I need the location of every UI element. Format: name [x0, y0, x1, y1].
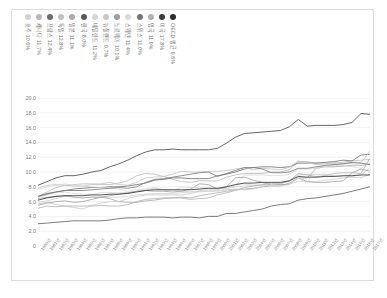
legend-item-label: 미국 17.8%	[159, 23, 165, 50]
legend-item[interactable]: 네덜란드 11.2%	[88, 12, 101, 97]
legend-marker-dot-icon	[125, 14, 131, 20]
legend-item[interactable]: 영국 11.9%	[144, 12, 157, 97]
y-axis-tick-label: 6.0	[29, 199, 37, 205]
legend-item-label: 스웨덴 11.4%	[125, 23, 131, 55]
legend-item-label: OECD 평균 9.6%	[170, 23, 176, 64]
line-chart-svg	[38, 98, 370, 246]
legend-item-label: 호주 10.6%	[25, 23, 31, 50]
legend-marker-dot-icon	[92, 14, 98, 20]
legend-marker-dot-icon	[58, 14, 64, 20]
series-line	[38, 163, 370, 197]
legend-item-label: 노르웨이 10.1%	[114, 23, 120, 60]
y-axis: 20.018.016.014.012.010.08.06.04.02.00	[12, 98, 38, 246]
legend-item-label: 독일 12.8%	[58, 23, 64, 50]
legend-item[interactable]: 한국 8.0%	[77, 12, 90, 97]
legend-item-label: 스위스 11.0%	[137, 23, 143, 55]
y-axis-tick-label: 0	[33, 243, 36, 249]
legend-marker-dot-icon	[137, 14, 143, 20]
legend-marker-dot-icon	[159, 14, 165, 20]
legend-item[interactable]: 호주 10.6%	[21, 12, 34, 97]
plot-wrapper: 20.018.016.014.012.010.08.06.04.02.00 19…	[12, 98, 375, 280]
chart-container: OECD 평균 9.6%미국 17.8%영국 11.9%스위스 11.0%스웨덴…	[11, 9, 374, 281]
legend-item-label: 영국 11.9%	[148, 23, 154, 50]
legend-marker-dot-icon	[103, 14, 109, 20]
legend-item[interactable]: 뉴질랜드 9.7%	[99, 12, 112, 97]
series-line	[38, 164, 370, 202]
legend-item-label: 네덜란드 11.2%	[92, 23, 98, 60]
legend-item[interactable]: 스위스 11.0%	[133, 12, 146, 97]
legend-marker-dot-icon	[47, 14, 53, 20]
y-axis-tick-label: 4.0	[29, 213, 37, 219]
legend-item[interactable]: 프랑스 12.4%	[43, 12, 56, 97]
legend-item[interactable]: 독일 12.8%	[55, 12, 68, 97]
y-axis-tick-label: 2.0	[29, 228, 37, 234]
legend-marker-dot-icon	[148, 14, 154, 20]
legend-item-label: 캐나다 11.7%	[36, 23, 42, 55]
legend-item-label: 일본 11.1%	[69, 23, 75, 50]
x-axis: 1980년1981년1982년1983년1984년1985년1986년1987년…	[38, 248, 370, 280]
plot-area	[38, 98, 370, 246]
legend-item-label: 뉴질랜드 9.7%	[103, 23, 109, 57]
legend-marker-dot-icon	[36, 14, 42, 20]
series-line	[38, 174, 370, 209]
y-axis-tick-label: 12.0	[26, 154, 37, 160]
y-axis-tick-label: 18.0	[26, 110, 37, 116]
legend-marker-dot-icon	[170, 14, 176, 20]
y-axis-tick-label: 16.0	[26, 125, 37, 131]
legend-marker-dot-icon	[114, 14, 120, 20]
series-lines	[38, 114, 370, 224]
chart-legend: OECD 평균 9.6%미국 17.8%영국 11.9%스위스 11.0%스웨덴…	[16, 12, 371, 97]
legend-item[interactable]: 노르웨이 10.1%	[111, 12, 124, 97]
y-axis-tick-label: 10.0	[26, 169, 37, 175]
legend-item[interactable]: 미국 17.8%	[155, 12, 168, 97]
legend-item[interactable]: OECD 평균 9.6%	[167, 12, 180, 97]
legend-marker-dot-icon	[25, 14, 31, 20]
legend-item[interactable]: 일본 11.1%	[66, 12, 79, 97]
series-line	[38, 187, 370, 224]
legend-item[interactable]: 스웨덴 11.4%	[122, 12, 135, 97]
y-axis-tick-label: 8.0	[29, 184, 37, 190]
legend-item[interactable]: 캐나다 11.7%	[32, 12, 45, 97]
y-axis-tick-label: 14.0	[26, 139, 37, 145]
legend-item-label: 프랑스 12.4%	[47, 23, 53, 55]
legend-item-label: 한국 8.0%	[81, 23, 87, 47]
y-axis-tick-label: 20.0	[26, 95, 37, 101]
legend-marker-dot-icon	[81, 14, 87, 20]
legend-marker-dot-icon	[69, 14, 75, 20]
